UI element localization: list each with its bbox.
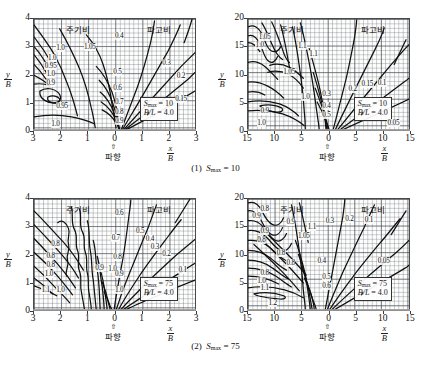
wave-direction-label-p1: 파향 — [105, 150, 121, 162]
x-tick-p1-4: 1 — [136, 133, 148, 143]
contour-label-p4-8: 0.8 — [286, 259, 295, 267]
contour-label-p3-17: 0.1 — [178, 266, 187, 274]
legend-box-p3: Smax = 75B/L = 4.0 — [140, 277, 178, 302]
y-tick-p3-1: 1 — [15, 277, 30, 287]
contour-label-p4-15: 0.6 — [322, 282, 331, 290]
x-tickmark-p4-3 — [329, 311, 330, 314]
label-wave-height-ratio-p2: 파고비 — [361, 23, 385, 35]
legend-bl: B/L = 4.0 — [144, 288, 174, 298]
contour-label-p4-16: 0.3 — [325, 217, 334, 225]
x-axis-label-p4: xB — [377, 324, 391, 342]
contour-label-p3-5: 1.0 — [56, 286, 65, 294]
x-tick-p4-2: 5 — [295, 313, 307, 323]
x-tickmark-p2-0 — [247, 131, 248, 134]
contour-label-p2-1: 1.0 — [255, 41, 264, 49]
x-tickmark-p4-2 — [301, 311, 302, 314]
legend-bl: B/L = 4.0 — [358, 108, 388, 118]
y-tick-p3-2: 2 — [15, 249, 30, 259]
contour-label-p2-10: 0.5 — [322, 111, 331, 119]
contour-label-p4-14: 0.5 — [322, 273, 331, 281]
x-tickmark-p4-6 — [410, 311, 411, 314]
x-tickmark-p2-2 — [301, 131, 302, 134]
contour-label-p4-4: 1.1 — [307, 223, 316, 231]
contour-label-p2-4: 1.05 — [283, 68, 296, 76]
figure-caption-2: (2) Smax = 75 — [0, 341, 431, 351]
x-tickmark-p3-0 — [33, 311, 34, 314]
x-tickmark-p4-1 — [274, 311, 275, 314]
contour-label-p4-3: 0.9 — [260, 227, 269, 235]
contour-label-p3-1: 0.8 — [46, 252, 55, 260]
legend-bl: B/L = 4.0 — [358, 288, 388, 298]
y-tick-p2-1: 5 — [229, 97, 244, 107]
y-tickmark-p2-3 — [244, 46, 247, 47]
contour-label-p4-18: 0.1 — [364, 216, 373, 224]
x-tickmark-p1-5 — [169, 131, 170, 134]
contour-label-p4-11: 1.1 — [260, 284, 269, 292]
y-tickmark-p2-0 — [244, 131, 247, 132]
y-tickmark-p4-2 — [244, 255, 247, 256]
contour-label-p3-8: 0.6 — [115, 209, 124, 217]
x-tick-p2-1: 10 — [268, 133, 280, 143]
y-tickmark-p1-2 — [30, 75, 33, 76]
y-tick-p4-0: 0 — [229, 305, 244, 315]
legend-bl: B/L = 4.0 — [144, 108, 174, 118]
x-tickmark-p2-1 — [274, 131, 275, 134]
contour-label-p3-3: 1.0 — [44, 270, 53, 278]
x-tick-p3-5: 2 — [163, 313, 175, 323]
y-tick-p3-4: 4 — [15, 192, 30, 202]
y-tickmark-p3-1 — [30, 283, 33, 284]
contour-label-p4-5: 1.05 — [298, 232, 311, 240]
x-tick-p2-3: 0 — [323, 133, 335, 143]
y-tick-p2-0: 0 — [229, 125, 244, 135]
contour-label-p2-6: 0.9 — [260, 107, 269, 115]
legend-smax: Smax = 75 — [358, 279, 388, 289]
contour-label-p1-9: 0.5 — [113, 68, 122, 76]
label-wave-height-ratio-p4: 파고비 — [361, 203, 385, 215]
contour-label-p1-4: 1.0 — [46, 70, 55, 78]
x-tick-p1-6: 3 — [190, 133, 202, 143]
figure-caption-1: (1) Smax = 10 — [0, 163, 431, 173]
legend-smax: Smax = 10 — [358, 99, 388, 109]
contour-label-p3-0: 0.8 — [51, 240, 60, 248]
y-tickmark-p4-0 — [244, 311, 247, 312]
x-tick-p1-3: 0 — [109, 133, 121, 143]
x-axis-label-p3: xB — [163, 324, 177, 342]
contour-label-p3-12: 1.0 — [115, 286, 124, 294]
x-tickmark-p2-4 — [356, 131, 357, 134]
y-tick-p3-3: 3 — [15, 220, 30, 230]
x-tickmark-p3-4 — [142, 311, 143, 314]
contour-label-p2-3: 1.1 — [309, 50, 318, 58]
contour-label-p4-13: 0.4 — [317, 257, 326, 265]
contour-label-p4-17: 0.2 — [345, 215, 354, 223]
x-tick-p1-2: 1 — [81, 133, 93, 143]
contour-label-p1-1: 1.05 — [84, 43, 97, 51]
contour-label-p4-7: 0.8 — [276, 249, 285, 257]
contour-label-p3-2: 0.8 — [46, 261, 55, 269]
y-tick-p3-0: 0 — [15, 305, 30, 315]
y-tickmark-p4-1 — [244, 283, 247, 284]
y-tickmark-p3-3 — [30, 226, 33, 227]
contour-label-p3-6: 0.9 — [95, 264, 104, 272]
y-tickmark-p1-4 — [30, 18, 33, 19]
contour-label-p3-16: 0.2 — [162, 250, 171, 258]
x-tickmark-p1-3 — [115, 131, 116, 134]
y-tickmark-p2-1 — [244, 103, 247, 104]
x-tick-p3-3: 0 — [109, 313, 121, 323]
legend-smax: Smax = 10 — [144, 99, 174, 109]
y-axis-label-p2: yB — [216, 70, 228, 88]
y-tickmark-p1-0 — [30, 131, 33, 132]
contour-label-p4-12: 1.2 — [268, 299, 277, 307]
contour-label-p2-11: 0.2 — [348, 85, 357, 93]
x-tickmark-p1-1 — [60, 131, 61, 134]
wave-direction-label-p2: 파향 — [319, 150, 335, 162]
y-tickmark-p4-4 — [244, 198, 247, 199]
x-tickmark-p1-6 — [196, 131, 197, 134]
contour-label-p3-9: 0.7 — [111, 234, 120, 242]
x-tickmark-p3-5 — [169, 311, 170, 314]
contour-label-p2-8: 0.3 — [322, 90, 331, 98]
y-tickmark-p1-3 — [30, 46, 33, 47]
contour-label-p1-0: 1.0 — [56, 44, 65, 52]
contour-label-p4-6: 0.8 — [257, 236, 266, 244]
contour-label-p1-16: 0.15 — [175, 95, 188, 103]
contour-label-p1-2: 1.0 — [48, 54, 57, 62]
